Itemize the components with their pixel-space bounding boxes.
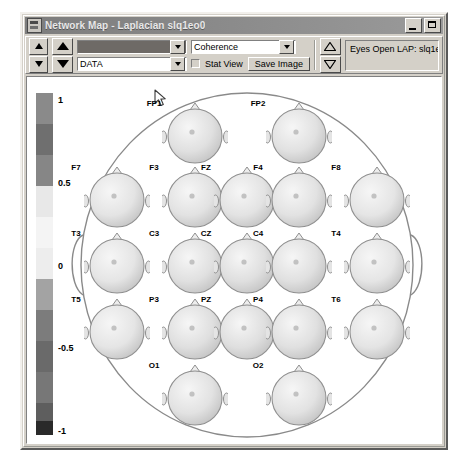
electrode-head-t6[interactable]: T6 [344, 297, 410, 365]
scale-spinner [320, 38, 341, 73]
electrode-head-c4[interactable]: C4 [266, 231, 332, 299]
colorbar-band [36, 124, 53, 155]
chevron-down-icon [284, 45, 290, 49]
title-bar[interactable]: Network Map - Laplacian slq1eo0 [25, 17, 443, 34]
electrode-label: FP1 [147, 99, 162, 108]
maximize-button[interactable] [424, 18, 441, 33]
topographic-map-canvas: 10.50-0.5-1 FP1FP2F7F3FZF4F8T3C3CZC4T4T5… [26, 76, 442, 444]
colorbar-tick-label: 0 [58, 261, 63, 271]
left-combo-group: DATA [77, 40, 187, 71]
electrode-label: T3 [71, 229, 80, 238]
app-icon [27, 18, 42, 33]
electrode-label: O2 [253, 361, 264, 370]
stat-view-label: Stat View [205, 59, 243, 69]
colorbar-tick-label: 1 [58, 95, 63, 105]
page-spinner-small-down[interactable] [29, 56, 48, 73]
mini-head-icon [162, 363, 228, 431]
stat-view-checkbox[interactable] [191, 59, 200, 68]
electrode-head-t3[interactable]: T3 [84, 231, 150, 299]
head-map: FP1FP2F7F3FZF4F8T3C3CZC4T4T5P3PZP4T6O1O2 [71, 85, 423, 444]
electrode-head-o2[interactable]: O2 [266, 363, 332, 431]
mini-head-icon [84, 231, 150, 299]
scale-spinner-up[interactable] [320, 38, 341, 55]
colorbar-band [36, 341, 53, 372]
minimize-button[interactable] [405, 18, 422, 33]
colorbar-tick-label: -1 [58, 426, 66, 436]
electrode-head-f4[interactable]: F4 [266, 165, 332, 233]
frequency-band-select[interactable] [77, 40, 187, 54]
triangle-down-icon [35, 61, 43, 67]
page-spinner-small [29, 38, 48, 73]
electrode-label: F8 [331, 163, 340, 172]
measure-value: Coherence [192, 41, 279, 53]
data-source-select[interactable]: DATA [77, 57, 187, 71]
electrode-head-t4[interactable]: T4 [344, 231, 410, 299]
mini-head-icon [266, 231, 332, 299]
mini-head-icon [266, 363, 332, 431]
electrode-label: P4 [253, 295, 263, 304]
electrode-head-f7[interactable]: F7 [84, 165, 150, 233]
toolbar-separator [314, 40, 316, 70]
electrode-label: T4 [331, 229, 340, 238]
colorbar-band [36, 310, 53, 341]
electrode-label: P3 [149, 295, 159, 304]
triangle-up-icon [35, 43, 43, 49]
data-source-value: DATA [78, 58, 170, 70]
status-field: Eyes Open LAP: slq1eo0 [345, 40, 439, 71]
electrode-head-o1[interactable]: O1 [162, 363, 228, 431]
electrode-label: T6 [331, 295, 340, 304]
measure-dropdown-button[interactable] [279, 40, 294, 54]
electrode-head-fp1[interactable]: FP1 [162, 101, 228, 169]
stat-view-row: Stat View Save Image [191, 57, 310, 71]
page-spinner-small-up[interactable] [29, 38, 48, 55]
electrode-label: CZ [201, 229, 212, 238]
colorbar-band [36, 403, 53, 420]
electrode-label: PZ [201, 295, 211, 304]
electrode-label: O1 [149, 361, 160, 370]
mini-head-icon [162, 101, 228, 169]
colorbar-band [36, 279, 53, 310]
save-image-button[interactable]: Save Image [248, 57, 310, 71]
data-source-dropdown-button[interactable] [170, 57, 185, 71]
colorbar [36, 93, 53, 438]
electrode-label: F7 [71, 163, 80, 172]
page-spinner-large-down[interactable] [52, 56, 73, 73]
page-spinner-large-up[interactable] [52, 38, 73, 55]
mini-head-icon [266, 101, 332, 169]
colorbar-band [36, 186, 53, 217]
electrode-head-p4[interactable]: P4 [266, 297, 332, 365]
network-map-window: Network Map - Laplacian slq1eo0 [20, 12, 448, 450]
electrode-head-t5[interactable]: T5 [84, 297, 150, 365]
triangle-up-icon [57, 42, 69, 50]
toolbar: DATA Coherence Stat View Save Image [25, 36, 443, 74]
colorbar-band [36, 155, 53, 186]
mini-head-icon [344, 165, 410, 233]
mini-head-icon [344, 297, 410, 365]
electrode-head-f8[interactable]: F8 [344, 165, 410, 233]
frequency-band-dropdown-button[interactable] [170, 40, 185, 54]
minimize-icon [409, 28, 416, 30]
mini-head-icon [266, 165, 332, 233]
triangle-up-outline-icon [324, 42, 336, 51]
title-bar-buttons [405, 18, 443, 33]
colorbar-band [36, 421, 53, 435]
measure-select[interactable]: Coherence [191, 40, 296, 54]
mini-head-icon [84, 165, 150, 233]
page-spinner-large [52, 38, 73, 73]
electrode-label: FZ [201, 163, 211, 172]
electrode-label: F4 [253, 163, 262, 172]
colorbar-band [36, 372, 53, 403]
triangle-down-icon [57, 60, 69, 68]
electrode-label: C3 [149, 229, 159, 238]
window-title: Network Map - Laplacian slq1eo0 [45, 20, 205, 31]
mini-head-icon [84, 297, 150, 365]
electrode-head-fp2[interactable]: FP2 [266, 101, 332, 169]
chevron-down-icon [175, 62, 181, 66]
triangle-down-outline-icon [324, 60, 336, 69]
colorbar-band [36, 217, 53, 248]
scale-spinner-down[interactable] [320, 56, 341, 73]
electrode-label: T5 [71, 295, 80, 304]
electrode-label: FP2 [251, 99, 266, 108]
colorbar-tick-label: 0.5 [58, 178, 71, 188]
colorbar-band [36, 93, 53, 124]
